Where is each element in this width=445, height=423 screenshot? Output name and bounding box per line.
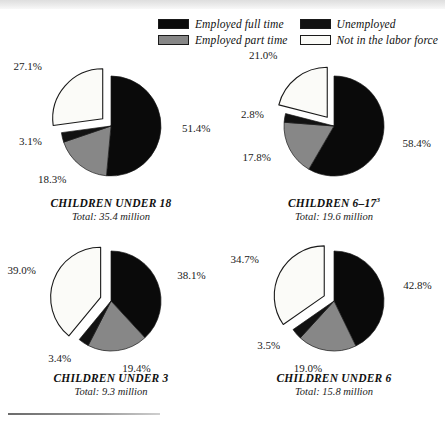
pie-slice-percent-label: 51.4% <box>182 123 210 134</box>
chart-title: CHILDREN UNDER 3 <box>0 368 222 385</box>
pie-slice-percent-label: 3.1% <box>19 136 42 147</box>
pie-svg <box>0 237 222 370</box>
legend: Employed full time Unemployed Employed p… <box>158 18 440 46</box>
pie-slice-percent-label: 18.3% <box>38 174 66 185</box>
chart-total: Total: 9.3 million <box>0 385 222 398</box>
chart-total: Total: 35.4 million <box>0 210 222 223</box>
pie-chart-children-under-6: 42.8%19.0%3.5%34.7% CHILDREN UNDER 6 Tot… <box>223 237 445 412</box>
pie-svg <box>223 62 445 195</box>
legend-item-unemployed: Unemployed <box>300 18 440 30</box>
chart-caption: CHILDREN UNDER 3 Total: 9.3 million <box>0 368 222 398</box>
legend-item-employed-full-time: Employed full time <box>158 18 290 30</box>
legend-swatch-employed-full-time <box>158 19 189 29</box>
pie-slice-percent-label: 3.4% <box>48 353 71 364</box>
legend-swatch-not-in-labor-force <box>300 35 331 45</box>
pie-slice <box>279 67 327 117</box>
chart-total: Total: 19.6 million <box>223 210 445 223</box>
pie-slice <box>106 76 161 176</box>
pie-chart-grid: 51.4%18.3%3.1%27.1% CHILDREN UNDER 18 To… <box>0 62 445 412</box>
pie-figure: 58.4%17.8%2.8%21.0% <box>223 62 445 195</box>
pie-slice-percent-label: 42.8% <box>403 280 431 291</box>
legend-swatch-employed-part-time <box>158 35 189 45</box>
pie-slice-percent-label: 58.4% <box>403 138 431 149</box>
chart-title-footnote: 3 <box>376 196 380 204</box>
legend-label-unemployed: Unemployed <box>337 18 396 30</box>
pie-chart-children-under-3: 38.1%19.4%3.4%39.0% CHILDREN UNDER 3 Tot… <box>0 237 222 412</box>
pie-slice-percent-label: 39.0% <box>8 265 36 276</box>
footnote-separator-rule <box>8 413 160 415</box>
chart-caption: CHILDREN UNDER 6 Total: 15.8 million <box>223 368 445 398</box>
pie-figure: 42.8%19.0%3.5%34.7% <box>223 237 445 370</box>
pie-figure: 38.1%19.4%3.4%39.0% <box>0 237 222 370</box>
chart-title: CHILDREN UNDER 6 <box>223 368 445 385</box>
pie-figure: 51.4%18.3%3.1%27.1% <box>0 62 222 195</box>
chart-title: CHILDREN UNDER 18 <box>0 193 222 210</box>
pie-slice-percent-label: 3.5% <box>257 340 280 351</box>
pie-slice-percent-label: 38.1% <box>177 270 205 281</box>
scan-artifact-band <box>0 0 445 9</box>
chart-caption: CHILDREN 6–173 Total: 19.6 million <box>223 193 445 223</box>
pie-slice-percent-label: 2.8% <box>241 109 264 120</box>
pie-chart-children-6-17: 58.4%17.8%2.8%21.0% CHILDREN 6–173 Total… <box>223 62 445 237</box>
pie-slice-percent-label: 21.0% <box>249 50 277 61</box>
pie-slice-percent-label: 34.7% <box>231 254 259 265</box>
pie-slice-percent-label: 17.8% <box>243 152 271 163</box>
pie-slice <box>53 69 103 126</box>
pie-slice-percent-label: 27.1% <box>14 61 42 72</box>
legend-item-employed-part-time: Employed part time <box>158 34 290 46</box>
legend-swatch-unemployed <box>300 19 331 29</box>
legend-item-not-in-labor-force: Not in the labor force <box>300 34 440 46</box>
legend-label-not-in-labor-force: Not in the labor force <box>337 34 438 46</box>
chart-caption: CHILDREN UNDER 18 Total: 35.4 million <box>0 193 222 223</box>
legend-label-employed-part-time: Employed part time <box>195 34 288 46</box>
chart-total: Total: 15.8 million <box>223 385 445 398</box>
pie-chart-children-under-18: 51.4%18.3%3.1%27.1% CHILDREN UNDER 18 To… <box>0 62 222 237</box>
legend-label-employed-full-time: Employed full time <box>195 18 284 30</box>
chart-title: CHILDREN 6–173 <box>223 193 445 210</box>
